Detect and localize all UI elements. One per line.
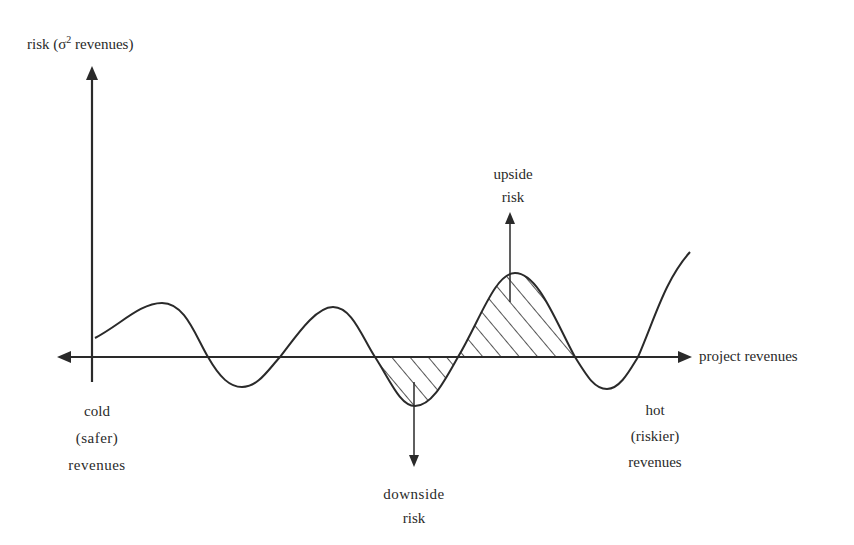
y-axis-label: risk (σ2 revenues) <box>27 34 133 54</box>
downside-label-line2: risk <box>364 508 464 528</box>
downside-risk-label: downside risk <box>364 484 464 528</box>
upside-risk-hatch <box>455 270 580 360</box>
x-axis-label: project revenues <box>699 346 798 366</box>
down-arrow-icon <box>409 455 419 467</box>
hot-label-line3: revenues <box>605 452 705 472</box>
hot-label-line2: (riskier) <box>605 426 705 446</box>
cold-label-line1: cold <box>52 401 142 421</box>
y-axis-label-suffix: revenues) <box>71 36 133 52</box>
cold-revenues-label: cold (safer) revenues <box>52 401 142 475</box>
y-axis-arrow-icon <box>86 66 98 80</box>
y-axis <box>86 66 98 382</box>
hot-revenues-label: hot (riskier) revenues <box>605 400 705 472</box>
cold-label-line2: (safer) <box>52 428 142 448</box>
downside-label-line1: downside <box>364 484 464 504</box>
upside-label-line2: risk <box>468 187 558 207</box>
y-axis-label-prefix: risk (σ <box>27 36 66 52</box>
x-axis-left-arrow-icon <box>57 351 71 363</box>
x-axis-right-arrow-icon <box>678 351 692 363</box>
upside-label-line1: upside <box>468 164 558 184</box>
downside-risk-hatch <box>372 355 462 410</box>
hot-label-line1: hot <box>605 400 705 420</box>
up-arrow-icon <box>505 212 515 224</box>
upside-risk-label: upside risk <box>468 164 558 207</box>
cold-label-line3: revenues <box>52 455 142 475</box>
